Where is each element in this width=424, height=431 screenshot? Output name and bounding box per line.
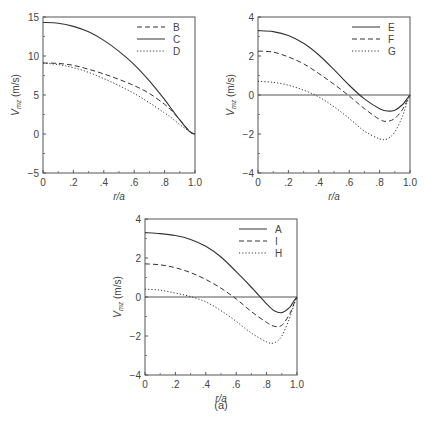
panel-top-right: 0.2.4.6.81.0−4−2024r/aVmz (m/s)EFG <box>225 12 417 203</box>
y-tick-label: −5 <box>28 168 40 179</box>
panel-top-left: 0.2.4.6.81.0−5051015r/aVmz (m/s)BCD <box>10 12 202 203</box>
legend-label-G: G <box>388 46 396 57</box>
x-tick-label: .6 <box>130 177 139 188</box>
x-axis-label: r/a <box>328 191 340 202</box>
x-tick-label: 0 <box>142 379 148 390</box>
x-tick-label: .4 <box>100 177 109 188</box>
y-tick-label: 4 <box>135 214 141 225</box>
x-tick-label: .8 <box>375 177 384 188</box>
legend-label-B: B <box>173 22 180 33</box>
x-tick-label: .8 <box>160 177 169 188</box>
y-tick-label: 5 <box>33 90 39 101</box>
legend-label-E: E <box>388 22 395 33</box>
x-tick-label: 1.0 <box>290 379 304 390</box>
y-tick-label: 2 <box>135 253 141 264</box>
y-tick-label: −4 <box>130 370 142 381</box>
x-tick-label: .8 <box>262 379 271 390</box>
figure: 0.2.4.6.81.0−5051015r/aVmz (m/s)BCD 0.2.… <box>0 0 424 431</box>
y-tick-label: −2 <box>130 331 142 342</box>
legend-label-A: A <box>275 224 282 235</box>
x-tick-label: 1.0 <box>188 177 202 188</box>
y-tick-label: 4 <box>248 12 254 23</box>
y-tick-label: 0 <box>135 292 141 303</box>
x-tick-label: .2 <box>284 177 293 188</box>
series-line-B <box>43 63 195 134</box>
y-tick-label: −2 <box>243 129 255 140</box>
y-axis-label: Vmz (m/s) <box>112 276 124 318</box>
series-line-I <box>145 264 297 327</box>
y-tick-label: −4 <box>243 168 255 179</box>
figure-caption: (a) <box>214 399 227 411</box>
y-tick-label: 0 <box>248 90 254 101</box>
x-tick-label: .2 <box>171 379 180 390</box>
x-tick-label: .4 <box>202 379 211 390</box>
series-line-D <box>43 63 195 134</box>
legend-label-D: D <box>173 46 180 57</box>
legend-label-F: F <box>388 34 394 45</box>
x-tick-label: 0 <box>255 177 261 188</box>
y-tick-label: 10 <box>28 51 40 62</box>
x-axis-label: r/a <box>113 191 125 202</box>
legend-label-H: H <box>275 248 282 259</box>
x-tick-label: 1.0 <box>403 177 417 188</box>
legend-label-I: I <box>275 236 278 247</box>
y-tick-label: 15 <box>28 12 40 23</box>
y-axis-label: Vmz (m/s) <box>225 74 237 116</box>
x-tick-label: .6 <box>345 177 354 188</box>
y-tick-label: 0 <box>33 129 39 140</box>
panel-bottom-center: 0.2.4.6.81.0−4−2024r/aVmz (m/s)AIH <box>112 214 304 405</box>
y-tick-label: 2 <box>248 51 254 62</box>
legend-label-C: C <box>173 34 180 45</box>
y-axis-label: Vmz (m/s) <box>10 74 22 116</box>
x-tick-label: .6 <box>232 379 241 390</box>
x-tick-label: .2 <box>69 177 78 188</box>
x-tick-label: .4 <box>315 177 324 188</box>
x-tick-label: 0 <box>40 177 46 188</box>
